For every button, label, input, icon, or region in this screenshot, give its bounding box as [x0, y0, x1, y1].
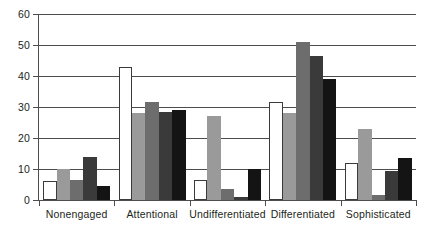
bar: [194, 180, 207, 200]
bar: [57, 169, 70, 200]
bar: [119, 67, 132, 200]
bar: [97, 186, 110, 200]
bar: [145, 102, 158, 200]
bar: [132, 113, 145, 200]
y-tick-label: 20: [0, 133, 30, 144]
bar: [172, 110, 185, 200]
x-category-label: Undifferentiated: [189, 208, 265, 220]
y-axis-labels: 0102030405060: [0, 0, 30, 232]
y-tick-mark: [33, 107, 39, 108]
bar-chart: 0102030405060 NonengagedAttentionalUndif…: [0, 0, 423, 232]
bar: [398, 158, 411, 200]
x-category-label: Sophisticated: [346, 208, 411, 220]
bar: [385, 171, 398, 200]
x-category-label: Nonengaged: [46, 208, 108, 220]
bar: [310, 56, 323, 200]
bar: [269, 102, 282, 200]
x-tick-mark: [416, 200, 417, 206]
y-tick-mark: [33, 169, 39, 170]
y-tick-label: 10: [0, 164, 30, 175]
bar: [159, 112, 172, 200]
x-tick-mark: [190, 200, 191, 206]
bar: [70, 180, 83, 200]
bar: [345, 163, 358, 200]
x-tick-mark: [341, 200, 342, 206]
x-category-label: Attentional: [126, 208, 177, 220]
y-tick-label: 60: [0, 9, 30, 20]
bar: [358, 129, 371, 200]
bar: [283, 113, 296, 200]
y-tick-mark: [33, 138, 39, 139]
y-tick-label: 30: [0, 102, 30, 113]
x-tick-mark: [265, 200, 266, 206]
bars-layer: [39, 14, 416, 200]
x-tick-mark: [39, 200, 40, 206]
x-axis-line: [39, 200, 416, 201]
y-tick-label: 50: [0, 40, 30, 51]
x-category-label: Differentiated: [271, 208, 335, 220]
bar: [248, 169, 261, 200]
bar: [323, 79, 336, 200]
bar: [207, 116, 220, 200]
plot-area: [39, 14, 416, 200]
bar: [83, 157, 96, 200]
y-tick-mark: [33, 14, 39, 15]
bar: [221, 189, 234, 200]
y-tick-label: 40: [0, 71, 30, 82]
x-tick-mark: [114, 200, 115, 206]
bar: [296, 42, 309, 200]
y-tick-label: 0: [0, 195, 30, 206]
y-tick-mark: [33, 45, 39, 46]
bar: [43, 181, 56, 200]
y-tick-mark: [33, 76, 39, 77]
